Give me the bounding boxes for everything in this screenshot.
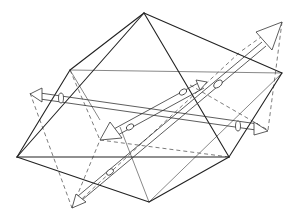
arrowhead-icon: [196, 80, 207, 90]
hidden-dashed-faces: [30, 22, 282, 208]
diagram-canvas: [0, 0, 299, 216]
horizontal-axis-arrow: [30, 88, 268, 135]
octahedron-diagram: [0, 0, 299, 216]
arrowhead-icon: [100, 122, 122, 140]
diagonal-axis-long-arrow: [72, 22, 282, 208]
arrowhead-icon: [256, 22, 282, 50]
arrowhead-icon: [30, 88, 42, 102]
front-edges: [17, 13, 282, 202]
arrowhead-icon: [72, 194, 86, 208]
